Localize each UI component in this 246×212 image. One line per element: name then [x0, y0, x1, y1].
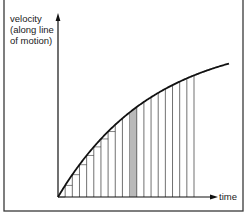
x-axis-arrow-icon: [210, 195, 218, 200]
y-axis-label-line: (along line: [10, 24, 54, 35]
y-axis-label-line: velocity: [10, 13, 54, 24]
velocity-curve: [58, 64, 229, 197]
diagram-frame: velocity (along line of motion) time: [0, 0, 246, 212]
x-axis-label: time: [219, 191, 237, 202]
y-axis-arrow-icon: [56, 13, 61, 21]
y-axis-label-line: of motion): [10, 35, 54, 46]
highlighted-strip: [130, 107, 137, 197]
y-axis-label: velocity (along line of motion): [10, 13, 54, 46]
area-strips: [58, 75, 194, 197]
